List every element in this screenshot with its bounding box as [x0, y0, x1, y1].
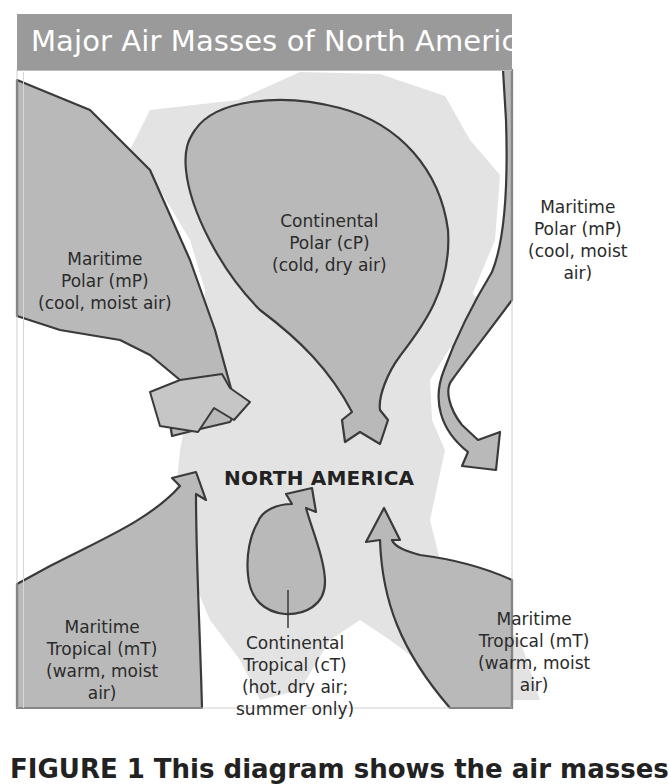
- label-mP-pacific: Maritime Polar (mP) (cool, moist air): [38, 248, 172, 314]
- figure-title: Major Air Masses of North America: [31, 24, 535, 58]
- label-mT-pacific: Maritime Tropical (mT) (warm, moist air): [46, 616, 158, 704]
- title-bar: Major Air Masses of North America: [17, 14, 512, 71]
- label-mP-atlantic: Maritime Polar (mP) (cool, moist air): [528, 196, 628, 284]
- north-america-label: NORTH AMERICA: [224, 466, 414, 490]
- label-mT-gulf: Maritime Tropical (mT) (warm, moist air): [478, 608, 590, 696]
- label-cT: Continental Tropical (cT) (hot, dry air;…: [236, 632, 354, 720]
- label-cP: Continental Polar (cP) (cold, dry air): [272, 210, 387, 276]
- frame-rule: [23, 72, 24, 708]
- figure-caption: FIGURE 1 This diagram shows the air mass…: [10, 754, 669, 784]
